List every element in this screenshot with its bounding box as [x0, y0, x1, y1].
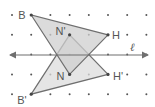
vertex-point: [106, 33, 109, 36]
grid-dot: [107, 14, 109, 16]
vertex-label: N: [57, 70, 65, 82]
grid-dot: [126, 14, 128, 16]
grid-dot: [11, 34, 13, 36]
vertex-label: B': [17, 94, 26, 106]
grid-dot: [49, 14, 51, 16]
grid-dot: [30, 73, 32, 75]
vertex-point: [68, 33, 71, 36]
vertex-point: [30, 13, 33, 16]
grid-dot: [69, 93, 71, 95]
vertex-label: N': [56, 25, 66, 37]
grid-dot: [11, 73, 13, 75]
grid-dot: [69, 14, 71, 16]
vertex-label: H': [113, 70, 123, 82]
grid-dot: [49, 93, 51, 95]
vertex-point: [68, 73, 71, 76]
line-label: ℓ: [130, 41, 135, 53]
grid-dot: [88, 14, 90, 16]
grid-dot: [126, 34, 128, 36]
vertex-point: [106, 73, 109, 76]
grid-dot: [145, 73, 147, 75]
grid-dot: [11, 93, 13, 95]
vertex-point: [30, 93, 33, 96]
grid-dot: [145, 14, 147, 16]
vertex-label: B: [18, 9, 25, 21]
grid-dot: [30, 34, 32, 36]
grid-dot: [107, 93, 109, 95]
grid-dot: [88, 93, 90, 95]
grid-dot: [11, 14, 13, 16]
grid-dot: [145, 34, 147, 36]
grid-dot: [126, 93, 128, 95]
grid-dot: [126, 73, 128, 75]
vertex-label: H: [112, 29, 120, 41]
reflection-diagram: ℓ BNHB'N'H': [0, 0, 155, 107]
grid-dot: [145, 93, 147, 95]
